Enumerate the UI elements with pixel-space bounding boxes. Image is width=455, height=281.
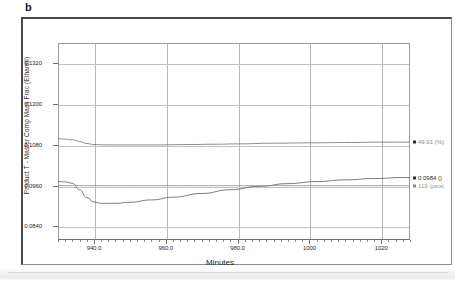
scan-artifact-band	[0, 268, 455, 281]
series-line	[58, 178, 410, 204]
data-curves	[0, 0, 455, 281]
chart-screenshot: b Product T - Master Comp Mass Frac (Eth…	[0, 0, 455, 281]
series-line	[58, 139, 410, 145]
